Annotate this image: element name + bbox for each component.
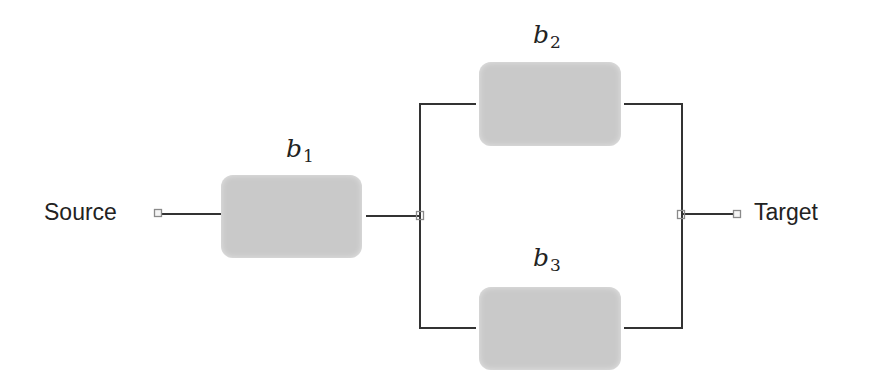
source-connector-icon — [155, 210, 162, 217]
connection-lines — [0, 0, 870, 388]
block-b3 — [479, 287, 621, 370]
block-b2-var: b — [533, 20, 549, 49]
block-b3-label: b3 — [533, 245, 561, 274]
block-b3-subscript: 3 — [550, 255, 561, 275]
edge-left-split — [420, 104, 476, 328]
block-b1 — [221, 175, 362, 258]
source-label: Source — [44, 201, 117, 224]
block-b2-label: b2 — [533, 22, 561, 51]
block-b2-subscript: 2 — [550, 32, 561, 52]
block-b1-label: b1 — [286, 136, 314, 165]
block-b3-var: b — [533, 243, 549, 272]
target-connector-icon — [734, 211, 741, 218]
reliability-block-diagram: Source Target b1 b2 b3 — [0, 0, 870, 388]
block-b2 — [479, 62, 621, 146]
block-b1-subscript: 1 — [303, 146, 314, 166]
target-label: Target — [754, 201, 818, 224]
edge-right-merge — [624, 104, 682, 328]
block-b1-var: b — [286, 134, 302, 163]
